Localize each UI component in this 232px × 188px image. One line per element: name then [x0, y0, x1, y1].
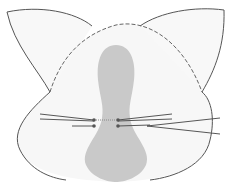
whisker-dot — [116, 118, 120, 122]
whisker-dot — [92, 124, 96, 128]
cat-face-diagram — [0, 0, 232, 188]
whisker-dot — [92, 118, 96, 122]
whisker-dot — [116, 124, 120, 128]
